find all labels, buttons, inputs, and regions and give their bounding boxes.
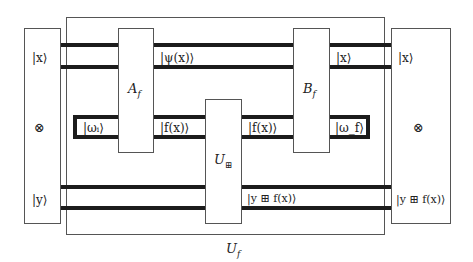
- omega-initial-label: |ωᵢ⟩: [83, 121, 104, 135]
- output-x-state: |x⟩: [398, 51, 414, 65]
- y-plus-f-wire-label: |y ⊞ f(x)⟩: [247, 192, 296, 206]
- input-x-state: |x⟩: [32, 51, 48, 65]
- input-tensor-icon: ⊗: [34, 120, 45, 135]
- outer-uf-label: Uf: [226, 241, 240, 259]
- f-after-u-label: |f(x)⟩: [248, 121, 277, 135]
- gate-b-f-label: Bf: [303, 81, 316, 99]
- x-wire-bottom: [60, 65, 392, 69]
- output-tensor-icon: ⊗: [413, 120, 424, 135]
- x-wire-top: [60, 43, 392, 47]
- f-after-a-label: |f(x)⟩: [160, 121, 189, 135]
- gate-u-boxplus-label: U⊞: [214, 152, 233, 170]
- psi-state-label: |ψ(x)⟩: [160, 51, 194, 65]
- x-after-b-label: |x⟩: [336, 51, 352, 65]
- input-y-state: |y⟩: [32, 193, 48, 207]
- gate-a-f-label: Af: [128, 81, 141, 99]
- omega-final-label: |ω_f⟩: [335, 121, 364, 135]
- output-y-plus-f-state: |y ⊞ f(x)⟩: [396, 193, 445, 207]
